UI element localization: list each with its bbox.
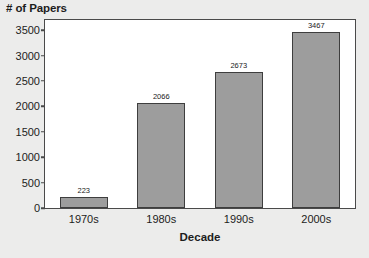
x-tick-label: 1970s	[69, 213, 99, 225]
y-tick-label: 2500	[16, 75, 40, 87]
y-tick-label: 1000	[16, 151, 40, 163]
bar	[215, 72, 263, 208]
bar	[137, 103, 185, 208]
x-tick-label: 1990s	[224, 213, 254, 225]
y-axis-tick-labels: 0500100015002000250030003500	[0, 0, 40, 258]
y-tick-label: 3000	[16, 50, 40, 62]
y-tick-label: 2000	[16, 100, 40, 112]
bar-value-label: 2066	[153, 92, 170, 101]
y-tick-label: 0	[34, 202, 40, 214]
y-tick-label: 500	[22, 177, 40, 189]
bar-value-label: 3467	[308, 21, 325, 30]
x-tick-label: 1980s	[146, 213, 176, 225]
y-tick-label: 1500	[16, 126, 40, 138]
chart-figure: # of Papers 0500100015002000250030003500…	[0, 0, 369, 258]
bar	[60, 197, 108, 208]
x-axis-title: Decade	[180, 231, 221, 243]
bar-value-label: 2673	[230, 61, 247, 70]
bar	[292, 32, 340, 208]
bar-value-label: 223	[77, 186, 90, 195]
plot-area: 223206626733467	[45, 20, 355, 208]
y-tick-label: 3500	[16, 24, 40, 36]
x-tick-label: 2000s	[301, 213, 331, 225]
